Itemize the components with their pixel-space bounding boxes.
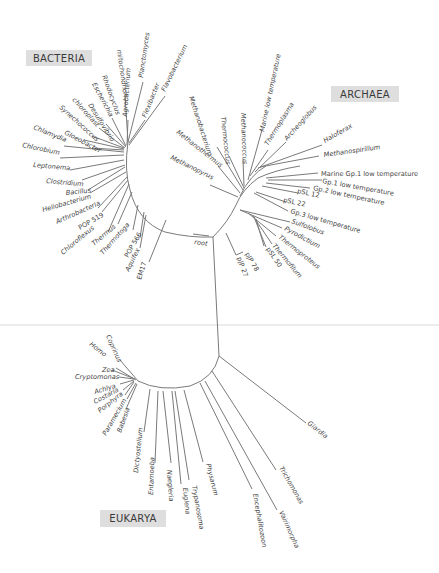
taxon-label: Trichomonas bbox=[277, 465, 305, 506]
taxon-label: Homo bbox=[88, 340, 108, 358]
taxon-label: Encephalitozoon bbox=[251, 493, 268, 548]
taxon-label: Flexibacter bbox=[140, 81, 162, 119]
taxon-label: Methanococcus bbox=[239, 113, 249, 165]
root-label: root bbox=[194, 238, 209, 248]
archaea-label: ARCHAEA bbox=[331, 86, 399, 102]
taxon-label: Dictyostelium bbox=[132, 427, 145, 473]
taxon-label: Thermococcus bbox=[219, 116, 232, 165]
taxon-label: Giardia bbox=[306, 419, 330, 440]
taxon-label: Cryptomonas bbox=[75, 373, 120, 381]
taxon-label: EM17 bbox=[135, 261, 148, 281]
taxon-label: Leptonema bbox=[33, 161, 71, 172]
taxon-label: Physarum bbox=[204, 463, 220, 497]
taxon-label: Clostridium bbox=[46, 177, 84, 188]
taxon-label: Naegleria bbox=[165, 470, 175, 502]
bacteria-label: BACTERIA bbox=[26, 50, 92, 66]
taxon-label: Marine Gp.1 low temperature bbox=[321, 170, 418, 178]
taxon-label: Methanospirillum bbox=[323, 143, 381, 159]
taxon-label: Trypanosoma bbox=[190, 485, 206, 530]
svg-text:ARCHAEA: ARCHAEA bbox=[340, 89, 390, 100]
taxon-label: Chlorobium bbox=[22, 141, 61, 157]
taxon-label: Haloferax bbox=[322, 122, 354, 145]
eukarya-label: EUKARYA bbox=[100, 510, 166, 527]
taxon-label: Flavobacterium bbox=[160, 43, 190, 93]
taxon-label: Euglena bbox=[181, 487, 192, 514]
svg-text:BACTERIA: BACTERIA bbox=[33, 53, 85, 64]
taxon-label: Chlamydia bbox=[32, 123, 67, 144]
taxon-label: Vairimorpha bbox=[277, 510, 301, 550]
taxon-label: Planctomyces bbox=[137, 31, 151, 78]
taxon-label: Entamoeba bbox=[147, 457, 156, 495]
taxon-label: pSL 22 bbox=[283, 196, 307, 209]
taxon-label: Coprinus bbox=[104, 334, 123, 364]
phylogenetic-tree: BACTERIA ARCHAEA EUKARYA root bbox=[0, 0, 439, 573]
svg-text:EUKARYA: EUKARYA bbox=[109, 513, 156, 524]
taxon-label: Gloeobacter bbox=[63, 129, 103, 156]
